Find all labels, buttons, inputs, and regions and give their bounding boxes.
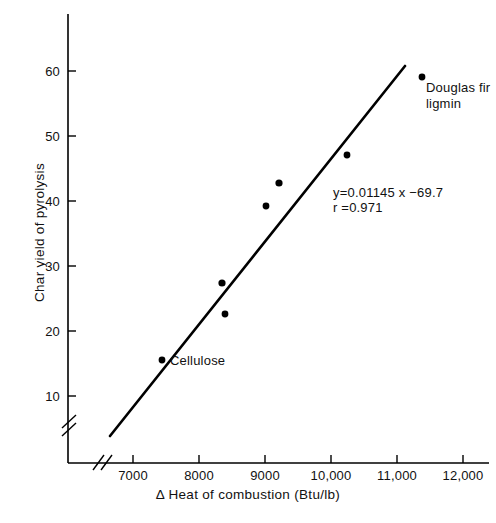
x-axis-title: Δ Heat of combustion (Btu/lb): [0, 487, 496, 502]
regression-fit-line: [110, 66, 405, 436]
point-label-douglas-line2: ligmin: [426, 96, 490, 112]
regression-equation-line: y=0.01145 x −69.7: [333, 185, 443, 200]
regression-equation-annotation: y=0.01145 x −69.7 r =0.971: [333, 185, 443, 215]
data-point: [159, 357, 166, 364]
scatter-plot-canvas: [0, 0, 496, 523]
y-axis-ticks: [68, 71, 76, 396]
correlation-coefficient-line: r =0.971: [333, 200, 443, 215]
point-label-cellulose: Cellulose: [170, 353, 225, 368]
x-tick-label-7000: 7000: [118, 468, 148, 483]
chart-figure: 7000 8000 9000 10,000 11,000 12,000 60 5…: [0, 0, 496, 523]
y-axis-title: Char yield of pyrolysis: [32, 133, 47, 333]
data-point: [218, 279, 225, 286]
data-point-markers: [159, 74, 426, 364]
point-label-douglas-fir-ligmin: Douglas fir ligmin: [426, 80, 490, 112]
x-tick-label-8000: 8000: [184, 468, 214, 483]
x-tick-label-10000: 10,000: [311, 468, 352, 483]
y-tick-label-60: 60: [26, 64, 60, 79]
x-tick-label-9000: 9000: [250, 468, 280, 483]
data-point: [275, 179, 282, 186]
data-point: [263, 203, 270, 210]
data-point: [419, 74, 426, 81]
x-tick-label-12000: 12,000: [443, 468, 484, 483]
x-axis-ticks: [133, 455, 463, 463]
data-point: [344, 152, 351, 159]
data-point: [222, 311, 229, 318]
x-tick-label-11000: 11,000: [377, 468, 417, 483]
point-label-douglas-line1: Douglas fir: [426, 80, 490, 96]
y-axis-break-icon: [62, 415, 76, 436]
y-tick-label-10: 10: [26, 389, 60, 404]
